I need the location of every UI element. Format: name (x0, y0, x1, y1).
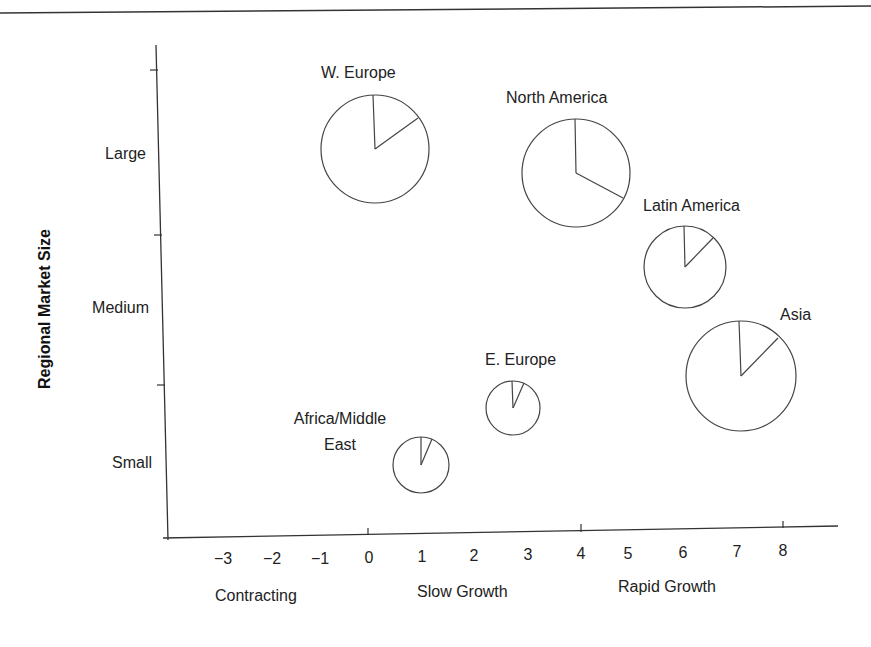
y-axis-title: Regional Market Size (36, 189, 54, 429)
bubble-label-w-europe: W. Europe (321, 64, 396, 82)
bubble-label-latin-america: Latin America (643, 197, 740, 215)
header-rule (0, 6, 871, 13)
x-tick-label: 7 (722, 543, 752, 561)
zone-label-contracting: Contracting (215, 587, 297, 605)
bubble-label-north-america: North America (506, 89, 607, 107)
x-tick-label: 0 (354, 549, 384, 567)
x-tick-label: 5 (613, 545, 643, 563)
bubble-w-europe (321, 95, 429, 203)
bubble-label-e-europe: E. Europe (485, 351, 556, 369)
bubble-asia (686, 321, 796, 431)
x-tick-label: 4 (566, 545, 596, 563)
zone-label-slow-growth: Slow Growth (417, 583, 508, 601)
bubble-label-asia: Asia (780, 306, 811, 324)
y-label-small: Small (72, 454, 152, 472)
x-tick-label: 2 (459, 547, 489, 565)
x-tick-label: 3 (513, 546, 543, 564)
x-axis (163, 526, 838, 538)
x-tick-label: −2 (257, 550, 287, 568)
x-tick-label: 1 (407, 548, 437, 566)
y-label-medium: Medium (69, 299, 149, 317)
bubble-north-america (522, 119, 630, 227)
x-tick-label: 6 (668, 544, 698, 562)
y-label-large: Large (66, 145, 146, 163)
bubble-label-africa-line2: East (286, 436, 394, 454)
bubble-label-africa-line1: Africa/Middle (286, 410, 394, 428)
y-axis (156, 45, 168, 540)
bubble-e-europe (486, 381, 540, 435)
x-tick-label: 8 (768, 542, 798, 560)
bubble-latin-america (644, 226, 726, 308)
zone-label-rapid-growth: Rapid Growth (618, 578, 716, 596)
bubble-africa-middle-east (393, 437, 449, 493)
x-tick-label: −1 (305, 550, 335, 568)
x-tick-label: −3 (208, 550, 238, 568)
